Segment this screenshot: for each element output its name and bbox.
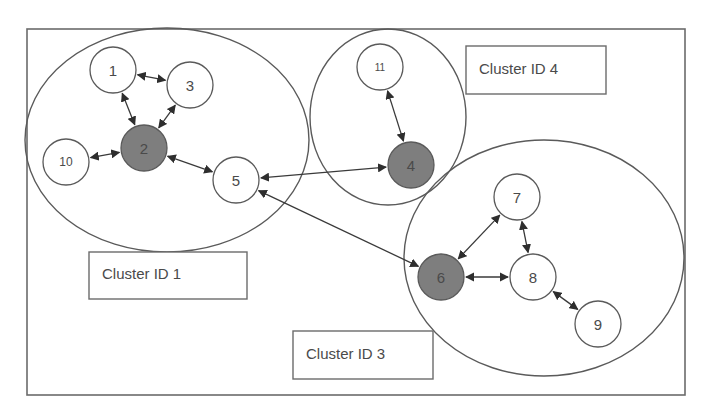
edge-1-2 xyxy=(122,93,135,125)
node-2: 2 xyxy=(121,125,167,171)
cluster-diagram: 1231051147689 Cluster ID 1Cluster ID 4Cl… xyxy=(0,0,708,411)
node-label: 8 xyxy=(529,269,537,286)
edge-5-4 xyxy=(261,167,386,178)
edge-6-7 xyxy=(458,215,500,259)
cluster-4-label: Cluster ID 4 xyxy=(466,46,606,94)
node-label: 9 xyxy=(594,316,602,333)
node-1: 1 xyxy=(90,47,136,93)
node-label: 11 xyxy=(375,62,386,73)
node-6: 6 xyxy=(418,254,464,300)
node-label: 7 xyxy=(513,189,521,206)
edge-2-5 xyxy=(168,156,213,172)
node-label: 2 xyxy=(140,140,148,157)
cluster-1-label: Cluster ID 1 xyxy=(89,252,247,299)
node-label: 1 xyxy=(109,62,117,79)
edge-10-2 xyxy=(91,152,120,157)
node-label: 10 xyxy=(59,155,73,169)
cluster-label-text: Cluster ID 4 xyxy=(479,60,558,77)
node-3: 3 xyxy=(167,62,213,108)
node-label: 5 xyxy=(232,172,240,189)
node-label: 4 xyxy=(407,157,415,174)
edge-3-2 xyxy=(159,105,176,128)
node-label: 3 xyxy=(186,77,194,94)
node-7: 7 xyxy=(494,174,540,220)
node-9: 9 xyxy=(575,301,621,347)
edge-11-4 xyxy=(388,91,404,141)
cluster-3-label: Cluster ID 3 xyxy=(293,331,433,379)
edge-7-8 xyxy=(522,222,528,253)
node-label: 6 xyxy=(437,269,445,286)
node-4: 4 xyxy=(388,142,434,188)
node-11: 11 xyxy=(357,44,403,90)
edge-8-9 xyxy=(553,292,577,310)
cluster-label-text: Cluster ID 3 xyxy=(306,345,385,362)
node-8: 8 xyxy=(510,254,556,300)
edge-1-3 xyxy=(138,75,166,80)
node-10: 10 xyxy=(43,139,89,185)
cluster-label-text: Cluster ID 1 xyxy=(102,265,181,282)
edge-5-6 xyxy=(259,191,419,267)
node-5: 5 xyxy=(213,157,259,203)
